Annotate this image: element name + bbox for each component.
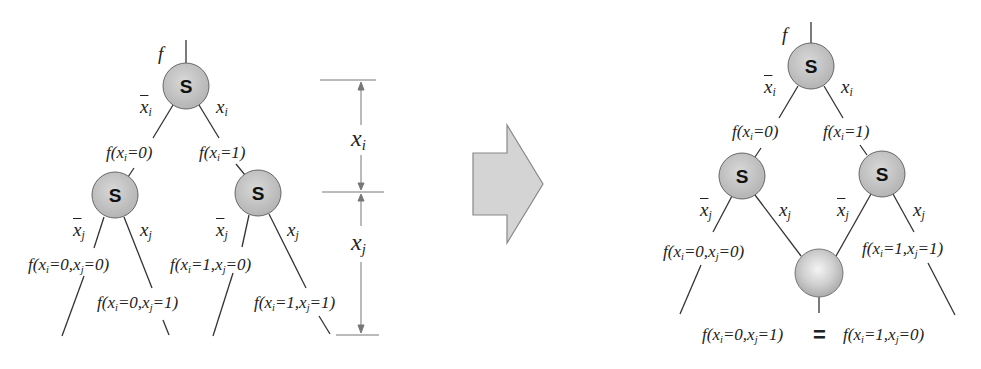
left-edge-neg-xi: xi <box>140 97 152 119</box>
left-child-node-1: S <box>235 170 281 216</box>
bdd-node-sharing-diagram: S S S S S S f xi xi f(xi=0) f(xi=1) xj x… <box>0 0 981 369</box>
left-edge-neg-xj-1: xj <box>216 220 228 242</box>
left-edge-neg-xj-0: xj <box>73 220 85 242</box>
left-edge-pos-xi: xi <box>216 97 228 119</box>
shared-merged-node <box>795 249 843 297</box>
right-edge-pos-xi: xi <box>841 77 853 99</box>
right-cofactor-xi0: f(xi=0) <box>732 123 779 142</box>
left-root-node: S <box>163 63 209 109</box>
equals-sign: = <box>813 322 826 348</box>
svg-text:S: S <box>252 183 265 204</box>
transform-arrow-icon <box>473 125 543 243</box>
diagram-canvas: S S S S S S <box>0 0 981 369</box>
right-edge-neg-xj-1: xj <box>837 200 849 222</box>
svg-text:S: S <box>805 56 818 77</box>
right-child-node-0: S <box>719 153 765 199</box>
svg-text:S: S <box>180 76 193 97</box>
svg-text:S: S <box>109 185 122 206</box>
left-edge-pos-xj-1: xj <box>287 220 299 242</box>
left-leaf-10: f(xi=1,xj=0) <box>170 256 251 275</box>
merged-leaf-left-expr: f(xi=0,xj=1) <box>702 326 783 345</box>
svg-text:S: S <box>736 166 749 187</box>
left-leaf-00: f(xi=0,xj=0) <box>28 256 109 275</box>
left-leaf-11: f(xi=1,xj=1) <box>254 294 335 313</box>
right-edge-pos-xj-0: xj <box>779 200 791 222</box>
right-edge-neg-xj-0: xj <box>700 200 712 222</box>
left-cofactor-xi0: f(xi=0) <box>106 144 153 163</box>
left-child-node-0: S <box>92 172 138 218</box>
svg-text:S: S <box>876 164 889 185</box>
merged-leaf-right-expr: f(xi=1,xj=0) <box>843 326 924 345</box>
right-child-node-1: S <box>859 151 905 197</box>
right-root-node: S <box>788 43 834 89</box>
right-cofactor-xi1: f(xi=1) <box>823 123 870 142</box>
right-leaf-11: f(xi=1,xj=1) <box>862 240 943 259</box>
left-root-function-label: f <box>158 44 163 63</box>
left-edge-pos-xj-0: xj <box>140 220 152 242</box>
dimension-label-xj: xj <box>351 230 366 257</box>
dimension-label-xi: xi <box>351 126 366 153</box>
right-leaf-00: f(xi=0,xj=0) <box>663 243 744 262</box>
right-root-function-label: f <box>782 25 787 44</box>
left-cofactor-xi1: f(xi=1) <box>199 144 246 163</box>
right-edge-pos-xj-1: xj <box>913 200 925 222</box>
right-edge-neg-xi: xi <box>764 77 776 99</box>
left-leaf-01: f(xi=0,xj=1) <box>97 294 178 313</box>
